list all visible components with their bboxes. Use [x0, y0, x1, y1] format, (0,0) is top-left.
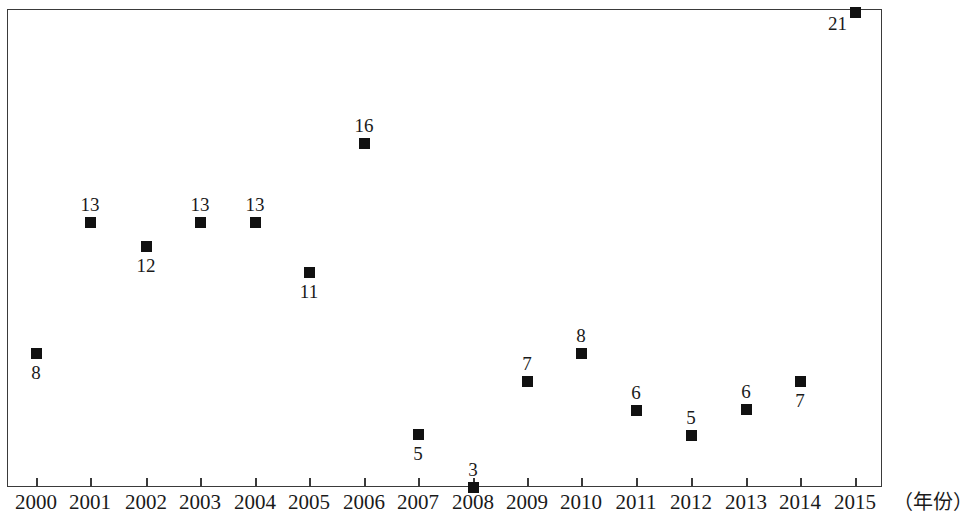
x-axis-tick-label: 2002	[125, 492, 167, 513]
data-point-value-label: 3	[468, 460, 478, 479]
x-axis-tick-label: 2006	[343, 492, 385, 513]
data-point-marker	[413, 429, 424, 440]
data-point-value-label: 11	[300, 282, 318, 301]
data-point-marker	[686, 430, 697, 441]
data-point-value-label: 13	[81, 195, 100, 214]
x-axis-tick-label: 2004	[234, 492, 276, 513]
x-axis-tick-label: 2014	[779, 492, 821, 513]
data-point-marker	[141, 241, 152, 252]
data-point-value-label: 8	[576, 326, 586, 345]
x-axis-tick-label: 2008	[452, 492, 494, 513]
data-point-value-label: 12	[137, 256, 156, 275]
data-point-value-label: 13	[246, 195, 265, 214]
data-point-marker	[631, 405, 642, 416]
x-axis-tick-label: 2013	[725, 492, 767, 513]
data-point-value-label: 8	[31, 363, 41, 382]
data-point-marker	[576, 348, 587, 359]
x-axis-tick-label: 2011	[615, 492, 656, 513]
data-point-marker	[522, 376, 533, 387]
data-point-marker	[741, 404, 752, 415]
data-point-value-label: 7	[522, 354, 532, 373]
x-axis-title: （年份）	[893, 492, 964, 512]
x-axis-tick-label: 2001	[69, 492, 111, 513]
x-axis-tick-label: 2007	[397, 492, 439, 513]
x-axis-tick-label: 2009	[506, 492, 548, 513]
data-point-marker	[85, 217, 96, 228]
x-axis-tick-label: 2000	[15, 492, 57, 513]
data-point-marker	[850, 7, 861, 18]
data-point-value-label: 16	[355, 116, 374, 135]
x-axis-tick-label: 2005	[288, 492, 330, 513]
data-point-marker	[250, 217, 261, 228]
data-point-marker	[31, 348, 42, 359]
plot-area: 81312131311165378656721	[7, 9, 882, 487]
data-point-value-label: 5	[686, 408, 696, 427]
x-axis-tick-label: 2012	[670, 492, 712, 513]
data-point-value-label: 6	[741, 382, 751, 401]
data-point-marker	[795, 376, 806, 387]
data-point-value-label: 13	[191, 195, 210, 214]
data-point-value-label: 6	[631, 383, 641, 402]
data-point-value-label: 5	[413, 444, 423, 463]
data-point-value-label: 21	[828, 14, 847, 33]
data-point-marker	[304, 267, 315, 278]
x-axis-tick-labels: 2000200120022003200420052006200720082009…	[0, 492, 955, 519]
data-point-marker	[195, 217, 206, 228]
data-point-value-label: 7	[795, 391, 805, 410]
data-point-marker	[359, 138, 370, 149]
x-axis-tick-label: 2015	[834, 492, 876, 513]
x-axis-tick-label: 2010	[560, 492, 602, 513]
x-axis-tick-label: 2003	[179, 492, 221, 513]
